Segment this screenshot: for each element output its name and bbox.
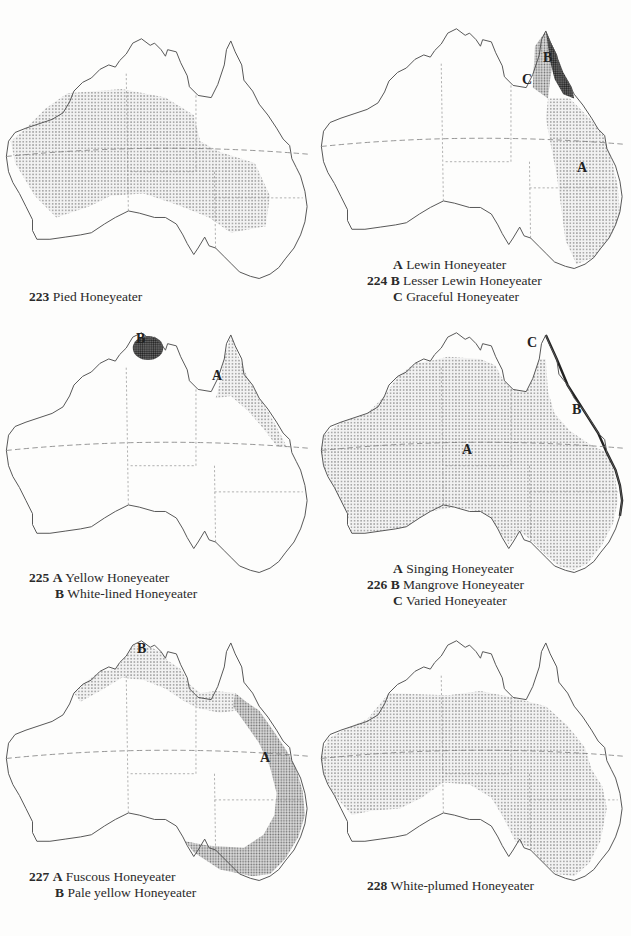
- map-label-b: B: [136, 331, 145, 347]
- map-label-c: C: [522, 72, 532, 88]
- caption-228: 228 White-plumed Honeyeater: [367, 878, 534, 894]
- map-label-a: A: [462, 442, 472, 458]
- map-panel-228: 228 White-plumed Honeyeater: [315, 624, 631, 936]
- map-label-a: A: [577, 160, 587, 176]
- map-panel-226: A B C A Singing Honeyeater 226 B Mangrov…: [315, 312, 631, 624]
- australia-map: [317, 630, 631, 900]
- map-label-b: B: [137, 641, 146, 657]
- map-label-c: C: [527, 335, 537, 351]
- map-label-a: A: [260, 750, 270, 766]
- caption-227: 227 A Fuscous Honeyeater B Pale yellow H…: [29, 869, 196, 901]
- caption-226: A Singing Honeyeater 226 B Mangrove Hone…: [367, 561, 524, 609]
- caption-224: A Lewin Honeyeater 224 B Lesser Lewin Ho…: [367, 257, 542, 305]
- map-panel-224: A B C A Lewin Honeyeater 224 B Lesser Le…: [315, 0, 631, 312]
- australia-map: [317, 322, 631, 592]
- map-panel-223: 223 Pied Honeyeater: [0, 0, 316, 312]
- australia-map: [2, 28, 318, 298]
- map-label-b: B: [572, 402, 581, 418]
- map-panel-225: A B 225 A Yellow Honeyeater B White-line…: [0, 312, 316, 624]
- australia-map: [317, 18, 631, 288]
- map-label-a: A: [212, 368, 222, 384]
- australia-map: [2, 322, 318, 592]
- map-panel-227: A B 227 A Fuscous Honeyeater B Pale yell…: [0, 624, 316, 936]
- caption-223: 223 Pied Honeyeater: [29, 289, 142, 305]
- australia-map: [2, 630, 318, 900]
- caption-225: 225 A Yellow Honeyeater B White-lined Ho…: [29, 570, 197, 602]
- map-label-b: B: [543, 50, 552, 66]
